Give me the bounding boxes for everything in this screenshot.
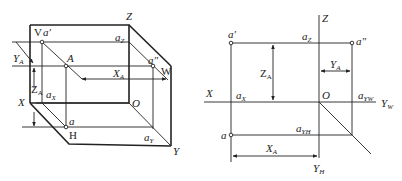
label-ax-left: aX	[46, 88, 57, 102]
label-ay-left: aY	[144, 131, 155, 145]
label-yw-right: YW	[381, 97, 394, 111]
label-xa-right: XA	[265, 142, 278, 156]
label-az: aZ	[115, 31, 125, 45]
point-a-prime	[40, 40, 44, 44]
label-a-prime-right: a′	[228, 28, 237, 40]
label-z: Z	[126, 10, 133, 22]
point-a	[64, 125, 68, 129]
point-a-prime-right	[229, 41, 233, 45]
label-w-plane: W	[161, 65, 172, 77]
label-a-prime: a′	[43, 26, 52, 38]
label-z-right: Z	[322, 12, 329, 24]
point-a-double-prime-right	[350, 41, 354, 45]
right-labels: Z a′ aZ a″ ZA YA X aX O aYW YW aYH a XA …	[205, 12, 394, 176]
label-y-left: Y	[173, 145, 181, 157]
label-ya-left: YA	[13, 52, 24, 66]
label-x-left: X	[17, 96, 26, 108]
point-a-right	[229, 133, 233, 137]
label-za-right: ZA	[260, 67, 272, 81]
label-a-double-prime: a″	[148, 54, 159, 66]
label-x-right: X	[205, 87, 214, 99]
left-labels: V a′ Z aZ A a″ W XA YA ZA aX X O a H aY …	[13, 10, 181, 157]
label-ax-right: aX	[236, 89, 247, 103]
label-o-left: O	[132, 97, 140, 109]
label-h-plane: H	[69, 129, 77, 141]
label-xa-left: XA	[112, 67, 125, 81]
label-yh-right: YH	[313, 162, 325, 176]
label-a-right: a	[221, 129, 227, 141]
label-a-double-prime-right: a″	[356, 35, 367, 47]
projection-diagram: V a′ Z aZ A a″ W XA YA ZA aX X O a H aY …	[0, 0, 402, 181]
label-o-right: O	[322, 89, 330, 101]
label-az-right: aZ	[302, 30, 312, 44]
label-a-left: a	[69, 115, 75, 127]
point-A	[64, 64, 68, 68]
label-za-left: ZA	[31, 83, 43, 97]
label-ya-right: YA	[330, 58, 341, 72]
label-v-plane: V	[34, 26, 42, 38]
label-ayh-right: aYH	[296, 122, 311, 136]
label-A: A	[66, 52, 74, 64]
label-ayw-right: aYW	[358, 89, 374, 103]
